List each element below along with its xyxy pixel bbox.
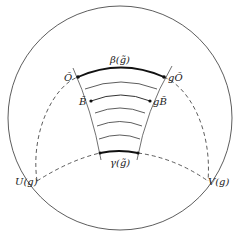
label-gO-tilde: gÕ [168,72,183,83]
point-gB-tilde [148,99,151,102]
point-gO-tilde [162,75,166,79]
rung-2 [91,95,150,101]
label-gB-tilde: gB̃ [153,96,167,107]
rung-4 [97,122,142,127]
label-U: U(g) [15,176,38,187]
rung-1 [85,82,157,89]
label-V: V(g) [208,176,230,187]
label-O-tilde: Õ [64,72,72,83]
point-gamma-left [99,152,102,155]
label-B-tilde: B̃ [78,96,86,107]
rung-5 [99,135,140,139]
diagram-canvas: β(g̃) Õ gÕ B̃ gB̃ γ(g̃) U(g) V(g) [0,0,240,231]
label-gamma: γ(g̃) [110,157,130,168]
gamma-arc [100,151,138,153]
beta-arc [78,68,164,78]
outer-circle [8,6,232,230]
point-gamma-right [137,152,140,155]
left-side-line [73,68,101,160]
point-B-tilde [89,99,92,102]
label-beta: β(g̃) [109,54,130,65]
right-side-line [137,66,172,160]
rung-3 [95,108,145,113]
point-O-tilde [76,75,80,79]
